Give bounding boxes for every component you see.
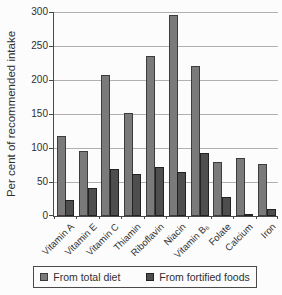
bar-chart-figure: Per cent of recommended intake 050100150… bbox=[0, 0, 282, 295]
bar-riboflavin-total-diet bbox=[146, 56, 155, 216]
bar-vitamin-a-fortified-foods bbox=[65, 200, 74, 216]
x-tick-mark bbox=[99, 216, 100, 219]
legend-marker-icon bbox=[40, 273, 48, 281]
y-tick-mark bbox=[49, 148, 53, 149]
y-tick-mark bbox=[49, 12, 53, 13]
y-tick-label: 300 bbox=[16, 6, 48, 18]
legend-label: From total diet bbox=[53, 271, 120, 283]
bar-vitamin-e-fortified-foods bbox=[88, 188, 97, 216]
y-tick-label: 100 bbox=[16, 142, 48, 154]
bar-vitamin-c-total-diet bbox=[101, 75, 110, 216]
bar-iron-fortified-foods bbox=[267, 209, 276, 216]
x-tick-mark bbox=[277, 216, 278, 219]
plot-area bbox=[53, 12, 278, 217]
gridline-250 bbox=[54, 46, 278, 47]
y-tick-mark bbox=[49, 46, 53, 47]
legend-item-total-diet: From total diet bbox=[40, 271, 120, 283]
y-tick-mark bbox=[49, 215, 53, 216]
x-tick-mark bbox=[256, 216, 257, 219]
bar-vitamin-c-fortified-foods bbox=[110, 169, 119, 216]
bar-folate-total-diet bbox=[213, 162, 222, 216]
x-tick-mark bbox=[76, 216, 77, 219]
y-tick-mark bbox=[49, 182, 53, 183]
x-tick-mark bbox=[121, 216, 122, 219]
gridline-300 bbox=[54, 12, 278, 13]
legend-marker-icon bbox=[146, 273, 154, 281]
x-tick-mark bbox=[233, 216, 234, 219]
y-tick-label: 250 bbox=[16, 40, 48, 52]
y-tick-mark bbox=[49, 80, 53, 81]
y-tick-label: 50 bbox=[16, 176, 48, 188]
x-tick-mark bbox=[144, 216, 145, 219]
bar-vitamin-b--total-diet bbox=[191, 66, 200, 216]
gridline-200 bbox=[54, 80, 278, 81]
bar-vitamin-e-total-diet bbox=[79, 151, 88, 216]
bar-iron-total-diet bbox=[258, 164, 267, 216]
y-tick-label: 150 bbox=[16, 108, 48, 120]
legend-box: From total dietFrom fortified foods bbox=[33, 266, 257, 288]
gridline-150 bbox=[54, 114, 278, 115]
bar-thiamin-fortified-foods bbox=[132, 174, 141, 216]
y-tick-mark bbox=[49, 114, 53, 115]
bar-vitamin-b--fortified-foods bbox=[200, 153, 209, 216]
legend-label: From fortified foods bbox=[159, 271, 249, 283]
bar-riboflavin-fortified-foods bbox=[155, 167, 164, 216]
x-tick-mark bbox=[166, 216, 167, 219]
y-tick-label: 200 bbox=[16, 74, 48, 86]
y-tick-label: 0 bbox=[16, 210, 48, 222]
x-tick-mark bbox=[188, 216, 189, 219]
x-tick-mark bbox=[54, 216, 55, 219]
x-tick-mark bbox=[211, 216, 212, 219]
bar-niacin-fortified-foods bbox=[177, 172, 186, 216]
bar-calcium-fortified-foods bbox=[244, 214, 253, 216]
gridline-100 bbox=[54, 148, 278, 149]
legend-item-fortified-foods: From fortified foods bbox=[146, 271, 249, 283]
bar-folate-fortified-foods bbox=[222, 197, 231, 216]
bar-calcium-total-diet bbox=[236, 158, 245, 216]
